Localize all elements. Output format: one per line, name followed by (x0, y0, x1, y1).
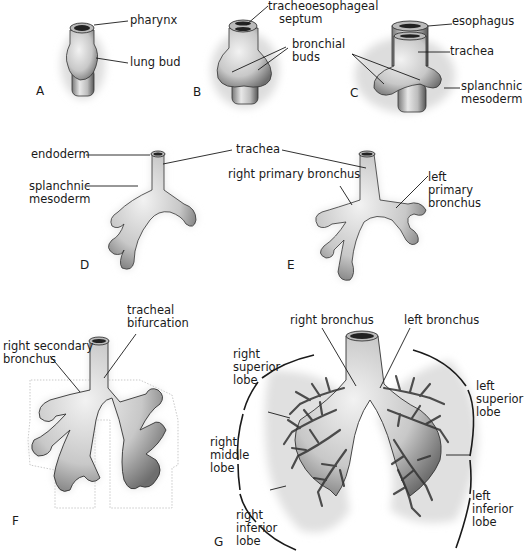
label-pharynx: pharynx (130, 14, 177, 27)
label-right-primary-bronchus: right primary bronchus (228, 168, 360, 181)
panel-letter-d: D (80, 258, 89, 272)
label-left-primary-bronchus: left primary bronchus (428, 171, 481, 210)
label-splanchnic-mesoderm-d: splanchnic mesoderm (29, 180, 90, 206)
panel-letter-b: B (193, 85, 201, 99)
label-tracheoesophageal-septum: tracheoesophageal septum (268, 0, 378, 26)
label-trachea-c: trachea (450, 45, 494, 58)
panel-letter-f: F (12, 514, 19, 528)
label-left-superior-lobe: left superior lobe (476, 380, 523, 419)
label-esophagus: esophagus (452, 15, 514, 28)
panel-g-drawing (265, 331, 478, 533)
label-right-bronchus: right bronchus (290, 314, 374, 327)
panel-letter-g: G (214, 535, 223, 549)
panel-letter-c: C (350, 86, 358, 100)
lung-development-figure: pharynx lung bud A tracheoesophageal sep… (0, 0, 524, 554)
panel-letter-e: E (287, 258, 295, 272)
panel-c-drawing (355, 21, 455, 113)
panel-letter-a: A (36, 84, 44, 98)
label-lung-bud: lung bud (130, 56, 181, 69)
panel-a-drawing (61, 23, 105, 99)
label-bronchial-buds: bronchial buds (292, 38, 345, 64)
label-right-superior-lobe: right superior lobe (233, 348, 280, 387)
label-right-inferior-lobe: right inferior lobe (236, 509, 277, 548)
label-trachea-de: trachea (236, 143, 280, 156)
label-left-inferior-lobe: left inferior lobe (472, 490, 513, 529)
panel-b-drawing (211, 20, 279, 108)
label-splanchnic-mesoderm-c: splanchnic mesoderm (461, 80, 522, 106)
diagram-artwork (0, 0, 524, 554)
label-right-middle-lobe: right middle lobe (210, 436, 249, 475)
label-endoderm: endoderm (31, 148, 90, 161)
label-left-bronchus: left bronchus (404, 314, 479, 327)
label-tracheal-bifurcation: tracheal bifurcation (127, 304, 189, 330)
label-right-secondary-bronchus: right secondary bronchus (3, 340, 93, 366)
panel-d-drawing (108, 151, 196, 269)
